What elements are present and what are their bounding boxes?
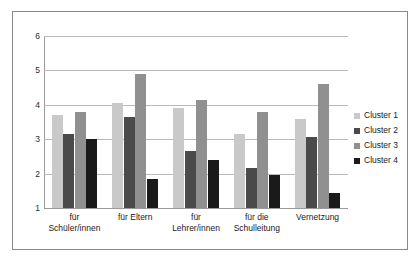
legend-swatch-icon [354,158,360,164]
category-label-line: für [44,212,105,223]
category-label-line: Lehrer/innen [166,223,227,234]
legend-item[interactable]: Cluster 3 [354,138,410,153]
category-label-line: für [166,212,227,223]
y-axis-tick-labels: 123456 [13,36,40,208]
x-axis-category-label: für Eltern [105,212,166,223]
legend-swatch-icon [354,113,360,119]
bar[interactable] [329,193,340,208]
bar[interactable] [257,112,268,208]
plot-area [44,36,348,208]
legend-swatch-icon [354,143,360,149]
bar[interactable] [269,175,280,208]
legend-label: Cluster 3 [364,141,398,150]
bar-group [166,36,227,208]
legend-label: Cluster 1 [364,111,398,120]
category-label-line: Vernetzung [287,212,348,223]
bar[interactable] [318,84,329,208]
category-label-line: für die [226,212,287,223]
bar[interactable] [147,179,158,208]
legend-label: Cluster 2 [364,126,398,135]
y-axis-tick-label: 4 [16,101,40,110]
legend-swatch-icon [354,128,360,134]
x-axis-category-label: für dieSchulleitung [226,212,287,234]
y-axis-tick-label: 2 [16,169,40,178]
bar[interactable] [295,119,306,208]
category-label-line: Schüler/innen [44,223,105,234]
bar[interactable] [75,112,86,208]
bar[interactable] [86,139,97,208]
bar-group [287,36,348,208]
y-axis-tick-label: 6 [16,32,40,41]
bar[interactable] [234,134,245,208]
chart-legend: Cluster 1Cluster 2Cluster 3Cluster 4 [354,108,410,168]
gridline [44,208,348,209]
y-axis-tick-label: 5 [16,66,40,75]
bar-group [105,36,166,208]
legend-item[interactable]: Cluster 1 [354,108,410,123]
bar[interactable] [135,74,146,208]
category-label-line: Schulleitung [226,223,287,234]
bar[interactable] [112,103,123,208]
bar-group [44,36,105,208]
category-label-line: für Eltern [105,212,166,223]
bar[interactable] [63,134,74,208]
y-axis-tick-label: 1 [16,204,40,213]
bar[interactable] [246,168,257,208]
legend-item[interactable]: Cluster 4 [354,153,410,168]
bar[interactable] [52,115,63,208]
bar[interactable] [173,108,184,208]
y-axis-tick-label: 3 [16,135,40,144]
bar[interactable] [208,160,219,208]
legend-item[interactable]: Cluster 2 [354,123,410,138]
x-axis-category-labels: fürSchüler/innenfür ElternfürLehrer/inne… [44,212,348,246]
legend-label: Cluster 4 [364,156,398,165]
x-axis-category-label: fürLehrer/innen [166,212,227,234]
bar[interactable] [196,100,207,208]
x-axis-category-label: Vernetzung [287,212,348,223]
bar[interactable] [306,137,317,208]
x-axis-category-label: fürSchüler/innen [44,212,105,234]
bar[interactable] [124,117,135,208]
chart-figure: 123456 fürSchüler/innenfür ElternfürLehr… [12,11,408,250]
bar-group [226,36,287,208]
bar[interactable] [185,151,196,208]
